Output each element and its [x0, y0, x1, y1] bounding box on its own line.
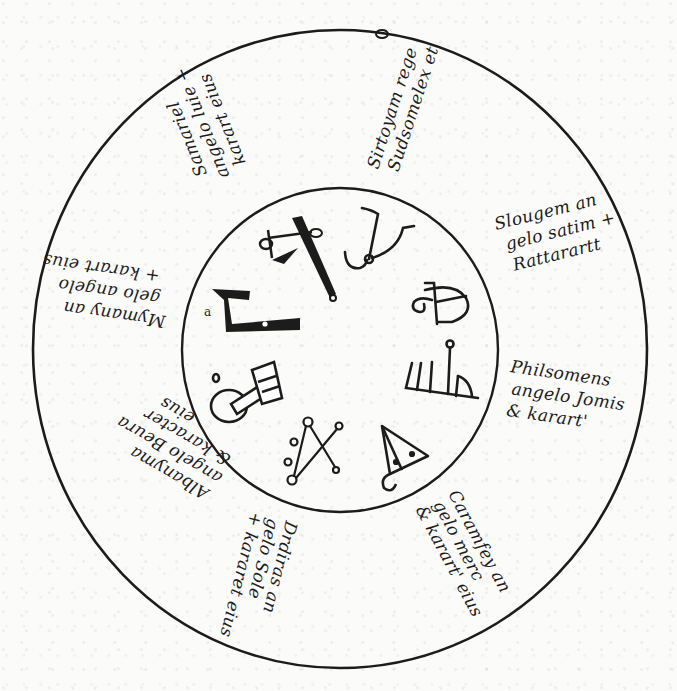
cross-blade-sigil-icon [260, 216, 336, 301]
block-hook-sigil-icon [212, 289, 300, 332]
inscription-top-right: Sirtoyam rege Sudsomelex et [363, 38, 442, 178]
inner-label-a: a [204, 305, 211, 319]
inscription-bottom: Drdiras an gelo Sole + kararet eius [216, 509, 302, 648]
crossed-circles-sigil-icon [285, 418, 343, 485]
comb-sigil-icon [406, 341, 478, 399]
hook-horns-sigil-icon [345, 208, 414, 268]
spiral-cross-sigil-icon [413, 283, 468, 324]
outer-circle [33, 30, 647, 668]
inscription-top-left: Samariel angelo luie + karart eius [152, 57, 252, 189]
key-circle-sigil-icon [211, 362, 282, 422]
inscription-right-upper: Slougem an gelo satim + Rattarartt [492, 186, 622, 277]
magic-circle-diagram: a [0, 0, 677, 691]
inscription-right: Philsomens angelo Jomis & karart' [502, 356, 629, 436]
inscription-left-lower: Albanyma angelo Beura & karacter eius [103, 379, 245, 506]
triangle-sigil-icon [382, 426, 428, 490]
inscription-bottom-right: Caramfey an gelo merc & karart' eius [412, 485, 519, 620]
inscription-left: Mymany an gelo angelo + karart eius [35, 250, 173, 332]
manuscript-page: a [0, 0, 677, 691]
